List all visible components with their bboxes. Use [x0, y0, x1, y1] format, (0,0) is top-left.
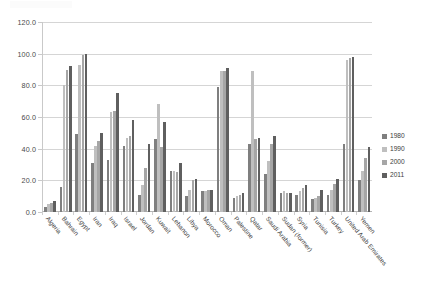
- bar-group: [294, 22, 310, 212]
- bar-group: [325, 22, 341, 212]
- x-axis-label-cell: Israel: [121, 212, 137, 286]
- x-axis-tick-mark: [325, 212, 326, 215]
- legend-item[interactable]: 1980: [382, 130, 427, 143]
- legend-swatch-icon: [382, 147, 387, 152]
- x-axis-labels: AlgeriaBahrainEgyptIranIraqIsraelJordanK…: [42, 212, 372, 286]
- x-axis-label-cell: Kuwait: [152, 212, 168, 286]
- bar-group: [262, 22, 278, 212]
- bar: [305, 185, 308, 212]
- bar-group: [278, 22, 294, 212]
- x-axis-label-cell: Iraq: [105, 212, 121, 286]
- x-axis-label-cell: Oman: [215, 212, 231, 286]
- bar-group: [105, 22, 121, 212]
- bar: [53, 201, 56, 212]
- x-axis-tick-mark: [341, 212, 342, 215]
- legend-swatch-icon: [382, 173, 387, 178]
- x-axis-tick-mark: [183, 212, 184, 215]
- x-axis-tick-label: Yemen: [359, 215, 377, 235]
- bar-groups: [42, 22, 372, 212]
- bar: [273, 136, 276, 212]
- x-axis-tick-mark: [89, 212, 90, 215]
- grouped-bar-chart: 0.020.040.060.080.0100.0120.0 AlgeriaBah…: [0, 0, 427, 288]
- legend-label: 1990: [390, 146, 405, 153]
- legend-item[interactable]: 1990: [382, 143, 427, 156]
- x-axis-label-cell: Saudi Arabia: [262, 212, 278, 286]
- bar: [226, 68, 229, 212]
- x-axis-label-cell: Lebanon: [168, 212, 184, 286]
- bar: [242, 193, 245, 212]
- bar: [368, 147, 371, 212]
- x-axis-label-cell: Egypt: [73, 212, 89, 286]
- x-axis-label-cell: Algeria: [42, 212, 58, 286]
- legend-item[interactable]: 2000: [382, 156, 427, 169]
- x-axis-label-cell: Iran: [89, 212, 105, 286]
- bar-group: [199, 22, 215, 212]
- bar: [148, 144, 151, 212]
- chart-legend: 1980199020002011: [382, 130, 427, 182]
- bar-group: [341, 22, 357, 212]
- x-axis-label-cell: Qatar: [246, 212, 262, 286]
- bar-group: [42, 22, 58, 212]
- y-axis-tick-label: 80.0: [22, 81, 36, 90]
- bar-group: [246, 22, 262, 212]
- x-axis-tick-mark: [58, 212, 59, 215]
- y-axis-tick-label: 20.0: [22, 176, 36, 185]
- bar-group: [309, 22, 325, 212]
- x-axis-label-cell: Jordan: [136, 212, 152, 286]
- x-axis-tick-label: Iraq: [107, 215, 120, 228]
- x-axis-tick-mark: [168, 212, 169, 215]
- bar-group: [356, 22, 372, 212]
- y-axis-tick-label: 0.0: [26, 208, 36, 217]
- x-axis-tick-mark: [152, 212, 153, 215]
- bar: [163, 122, 166, 212]
- bar-group: [136, 22, 152, 212]
- x-axis-tick-mark: [121, 212, 122, 215]
- legend-item[interactable]: 2011: [382, 169, 427, 182]
- x-axis-label-cell: Libya: [183, 212, 199, 286]
- x-axis-label-cell: Sudan (former): [278, 212, 294, 286]
- x-axis-label-cell: Morocco: [199, 212, 215, 286]
- x-axis-tick-mark: [262, 212, 263, 215]
- x-axis-tick-mark: [231, 212, 232, 215]
- x-axis-label-cell: Yemen: [356, 212, 372, 286]
- top-edge-artifact: [10, 1, 72, 8]
- legend-label: 2011: [390, 172, 404, 179]
- x-axis-tick-mark: [73, 212, 74, 215]
- bar-group: [58, 22, 74, 212]
- bar-group: [152, 22, 168, 212]
- bar: [85, 54, 88, 212]
- y-axis-tick-label: 120.0: [18, 18, 37, 27]
- x-axis-tick-mark: [136, 212, 137, 215]
- bar: [195, 179, 198, 212]
- bar-group: [231, 22, 247, 212]
- bar-group: [89, 22, 105, 212]
- x-axis-label-cell: Tunisia: [309, 212, 325, 286]
- bar-group: [168, 22, 184, 212]
- y-axis-tick-label: 40.0: [22, 144, 36, 153]
- bar: [320, 190, 323, 212]
- x-axis-label-cell: Bahrain: [58, 212, 74, 286]
- legend-label: 1980: [390, 133, 405, 140]
- bar-group: [73, 22, 89, 212]
- x-axis-tick-mark: [199, 212, 200, 215]
- legend-swatch-icon: [382, 134, 387, 139]
- x-axis-tick-mark: [356, 212, 357, 215]
- bar: [100, 133, 103, 212]
- x-axis-tick-mark: [278, 212, 279, 215]
- bar: [258, 138, 261, 212]
- y-axis-labels: 0.020.040.060.080.0100.0120.0: [0, 22, 38, 212]
- bar-group: [215, 22, 231, 212]
- x-axis-label-cell: Syria: [294, 212, 310, 286]
- y-axis-tick-label: 100.0: [18, 49, 37, 58]
- bar: [132, 120, 135, 212]
- legend-label: 2000: [390, 159, 405, 166]
- bar: [116, 93, 119, 212]
- bar: [179, 163, 182, 212]
- bar: [210, 190, 213, 212]
- bar: [69, 66, 72, 212]
- x-axis-tick-mark: [309, 212, 310, 215]
- x-axis-tick-mark: [246, 212, 247, 215]
- bar: [352, 57, 355, 212]
- x-axis-label-cell: United Arab Emirates: [341, 212, 357, 286]
- x-axis-label-cell: Palestine: [231, 212, 247, 286]
